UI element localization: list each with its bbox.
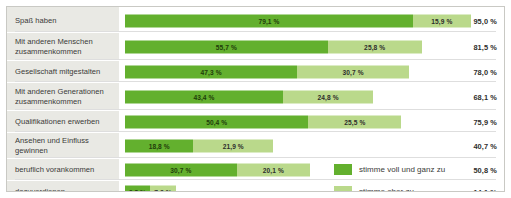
category-label: Ansehen und Einflussgewinnen — [7, 133, 119, 158]
category-label: Mit anderen Generationenzusammenkommen — [7, 83, 119, 110]
category-label: Gesellschaft mitgestalten — [7, 61, 119, 82]
category-label-line: Ansehen und Einfluss — [15, 136, 89, 145]
chart-row: Qualifikationen erwerben50,4 %25,5 %75,9… — [7, 111, 504, 133]
bar-segment-series-a: 50,4 % — [125, 115, 308, 128]
category-label-line: Gesellschaft mitgestalten — [15, 67, 100, 76]
category-label-line: Spaß haben — [15, 16, 57, 25]
legend-label-series-a: stimme voll und ganz zu — [359, 165, 445, 174]
row-total-value: 81,5 % — [473, 42, 497, 51]
row-divider — [15, 31, 496, 32]
row-total-value: 68,1 % — [473, 92, 497, 101]
bar-segment-series-a: 6,8 % — [125, 185, 150, 192]
row-total-value: 78,0 % — [473, 67, 497, 76]
row-total-value: 14,1 % — [473, 187, 497, 192]
row-plot-area: 47,3 %30,7 %78,0 % — [119, 61, 504, 82]
row-divider — [15, 157, 496, 158]
legend-label-series-b: stimme eher zu — [359, 187, 414, 192]
row-total-value: 95,0 % — [473, 16, 497, 25]
bar-value-series-a: 55,7 % — [216, 43, 237, 50]
stacked-bar: 18,8 %21,9 % — [125, 139, 273, 152]
stacked-bar: 30,7 %20,1 % — [125, 163, 310, 176]
category-label: Spaß haben — [7, 9, 119, 32]
bar-value-series-b: 20,1 % — [263, 166, 284, 173]
stacked-bar: 6,8 %7,3 % — [125, 185, 176, 192]
category-label: Mit anderen Menschenzusammenkommen — [7, 33, 119, 60]
category-label: beruflich vorankommen — [7, 159, 119, 180]
row-plot-area: 30,7 %20,1 %50,8 % — [119, 159, 504, 180]
bar-value-series-a: 6,8 % — [129, 188, 146, 192]
row-divider — [15, 109, 496, 110]
chart-row: Mit anderen Generationenzusammenkommen43… — [7, 83, 504, 111]
legend-item-stimme-voll-und-ganz-zu: stimme voll und ganz zu — [334, 164, 445, 175]
bar-value-series-b: 30,7 % — [342, 68, 363, 75]
bar-segment-series-b: 25,5 % — [308, 115, 401, 128]
bar-value-series-b: 21,9 % — [223, 142, 244, 149]
legend-item-stimme-eher-zu: stimme eher zu — [334, 186, 414, 192]
category-label-line: zusammenkommen — [15, 97, 104, 106]
bar-value-series-b: 24,8 % — [318, 93, 339, 100]
category-label-line: gewinnen — [15, 146, 89, 155]
bar-value-series-b: 25,8 % — [364, 43, 385, 50]
bar-segment-series-b: 21,9 % — [193, 139, 273, 152]
legend-swatch-icon-series-a — [334, 164, 352, 175]
row-plot-area: 55,7 %25,8 %81,5 % — [119, 33, 504, 60]
bar-value-series-b: 7,3 % — [154, 188, 171, 192]
row-total-value: 40,7 % — [473, 141, 497, 150]
bar-value-series-a: 18,8 % — [149, 142, 170, 149]
bar-segment-series-a: 47,3 % — [125, 65, 297, 78]
row-divider — [15, 179, 496, 180]
row-plot-area: 6,8 %7,3 %14,1 % — [119, 181, 504, 192]
row-total-value: 75,9 % — [473, 117, 497, 126]
bar-value-series-a: 79,1 % — [258, 17, 279, 24]
bar-segment-series-a: 30,7 % — [125, 163, 237, 176]
row-total-value: 50,8 % — [473, 165, 497, 174]
chart-frame: Spaß haben79,1 %15,9 %95,0 %Mit anderen … — [6, 6, 505, 192]
category-label-line: Mit anderen Generationen — [15, 87, 104, 96]
legend-swatch-icon-series-b — [334, 186, 352, 192]
category-label-line: beruflich vorankommen — [15, 165, 94, 174]
stacked-bar: 79,1 %15,9 % — [125, 14, 471, 27]
bar-segment-series-a: 43,4 % — [125, 90, 283, 103]
stacked-bar: 50,4 %25,5 % — [125, 115, 401, 128]
row-plot-area: 43,4 %24,8 %68,1 % — [119, 83, 504, 110]
chart-row: dazuverdienen6,8 %7,3 %14,1 % — [7, 181, 504, 192]
bar-segment-series-b: 24,8 % — [283, 90, 373, 103]
chart-row: Ansehen und Einflussgewinnen18,8 %21,9 %… — [7, 133, 504, 159]
category-label: dazuverdienen — [7, 181, 119, 192]
bar-value-series-b: 25,5 % — [344, 118, 365, 125]
stacked-bar: 47,3 %30,7 % — [125, 65, 409, 78]
category-label-line: Mit anderen Menschen — [15, 37, 93, 46]
bar-segment-series-b: 25,8 % — [328, 40, 422, 53]
row-plot-area: 79,1 %15,9 %95,0 % — [119, 9, 504, 32]
stacked-bar: 55,7 %25,8 % — [125, 40, 422, 53]
bar-segment-series-b: 30,7 % — [297, 65, 409, 78]
category-label-line: dazuverdienen — [15, 187, 65, 192]
bar-value-series-a: 30,7 % — [170, 166, 191, 173]
bar-value-series-a: 47,3 % — [201, 68, 222, 75]
chart-row: Gesellschaft mitgestalten47,3 %30,7 %78,… — [7, 61, 504, 83]
category-label: Qualifikationen erwerben — [7, 111, 119, 132]
bar-value-series-b: 15,9 % — [431, 17, 452, 24]
stacked-bar-chart: Spaß haben79,1 %15,9 %95,0 %Mit anderen … — [0, 0, 511, 198]
row-plot-area: 18,8 %21,9 %40,7 % — [119, 133, 504, 158]
bar-segment-series-b: 15,9 % — [413, 14, 471, 27]
bar-segment-series-a: 55,7 % — [125, 40, 328, 53]
category-label-line: zusammenkommen — [15, 47, 93, 56]
bar-value-series-a: 50,4 % — [206, 118, 227, 125]
row-plot-area: 50,4 %25,5 %75,9 % — [119, 111, 504, 132]
bar-segment-series-a: 79,1 % — [125, 14, 413, 27]
bar-value-series-a: 43,4 % — [193, 93, 214, 100]
chart-row: Mit anderen Menschenzusammenkommen55,7 %… — [7, 33, 504, 61]
bar-segment-series-b: 7,3 % — [150, 185, 177, 192]
bar-segment-series-a: 18,8 % — [125, 139, 193, 152]
stacked-bar: 43,4 %24,8 % — [125, 90, 373, 103]
bar-segment-series-b: 20,1 % — [237, 163, 310, 176]
row-divider — [15, 81, 496, 82]
row-divider — [15, 131, 496, 132]
chart-row: Spaß haben79,1 %15,9 %95,0 % — [7, 9, 504, 33]
row-divider — [15, 59, 496, 60]
category-label-line: Qualifikationen erwerben — [15, 117, 99, 126]
